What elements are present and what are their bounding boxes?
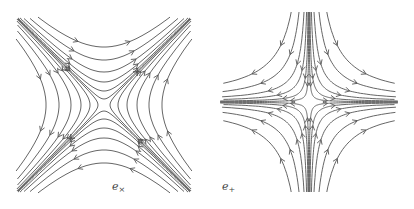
streamline-bottom-0: [18, 111, 190, 191]
streamline-q1-1-0: [309, 12, 398, 102]
streamline-q1-1-5: [327, 12, 395, 83]
streamline-left-0: [18, 19, 98, 191]
streamline-q-1-1-5: [223, 12, 291, 83]
streamline-q11-4: [319, 112, 395, 192]
streamline-q-1-1-1: [220, 12, 308, 101]
streamline-q-1-1-4: [223, 12, 299, 92]
streamline-top-5: [38, 17, 170, 47]
label-e-plus-sub: +: [229, 185, 236, 194]
streamline-top-0: [18, 19, 190, 99]
streamline-right-5: [162, 39, 192, 171]
streamline-q11-2: [311, 105, 394, 192]
arrow-icon: [131, 59, 136, 64]
streamline-left-3: [18, 25, 72, 185]
arrow-icon: [145, 73, 150, 78]
streamline-q11-5: [327, 121, 395, 192]
streamline-top-3: [24, 19, 184, 73]
label-e-plus: e+: [222, 180, 235, 194]
streamline-q11-1: [310, 103, 398, 192]
streamline-bottom-5: [38, 163, 170, 193]
label-e-cross-sub: ×: [119, 185, 126, 194]
streamline-q-11-1: [220, 103, 308, 192]
streamline-q1-1-1: [310, 12, 398, 101]
streamline-q1-1-2: [311, 12, 394, 99]
streamline-bottom-3: [24, 138, 184, 192]
streamline-q1-1-4: [319, 12, 395, 92]
streamline-right-0: [110, 19, 190, 191]
streamline-left-5: [16, 39, 46, 171]
arrow-icon: [58, 132, 63, 137]
streamline-q-1-1-0: [220, 12, 309, 102]
streamline-q-11-0: [220, 102, 309, 192]
polarization-diagram: [0, 0, 414, 209]
streamline-q-1-1-2: [224, 12, 307, 99]
arrow-icon: [72, 146, 77, 151]
streamline-right-3: [137, 25, 191, 185]
streamline-q-11-2: [224, 105, 307, 192]
streamline-q11-0: [309, 102, 398, 192]
label-e-cross: e×: [112, 180, 125, 194]
